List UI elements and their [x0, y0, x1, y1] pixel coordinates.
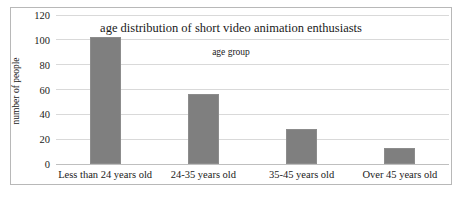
y-axis-tick-label: 120 [34, 10, 50, 21]
x-axis-tick-label: Over 45 years old [351, 168, 449, 184]
x-axis-tick-labels: Less than 24 years old24-35 years old35-… [56, 168, 449, 184]
bar-series [56, 15, 449, 164]
plot-area: 020406080100120 [56, 15, 449, 164]
chart-container: number of people age distribution of sho… [10, 7, 452, 185]
y-axis-tick-label: 80 [40, 59, 51, 70]
y-axis-tick-label: 60 [40, 84, 51, 95]
y-axis-tick-label: 0 [45, 159, 50, 170]
x-axis-tick-label: 24-35 years old [154, 168, 252, 184]
bar[interactable] [384, 148, 415, 164]
x-axis-tick-label: Less than 24 years old [56, 168, 154, 184]
y-axis-tick-label: 40 [40, 109, 51, 120]
bar[interactable] [188, 94, 219, 164]
x-axis-tick-label: 35-45 years old [253, 168, 351, 184]
bar[interactable] [90, 37, 121, 164]
bar[interactable] [286, 129, 317, 164]
y-axis-tick-label: 20 [40, 134, 51, 145]
y-axis-tick-label: 100 [34, 34, 50, 45]
